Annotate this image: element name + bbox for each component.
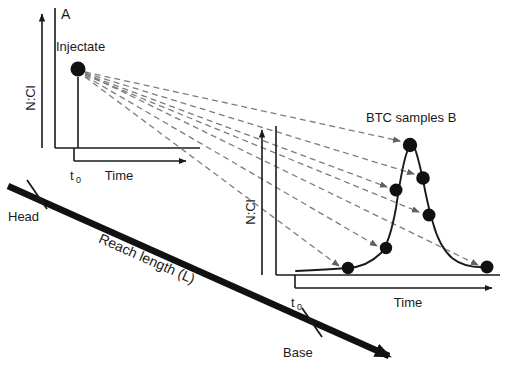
btc-sample-point-7 bbox=[481, 261, 494, 274]
panel-b-t0-subscript: 0 bbox=[297, 302, 302, 312]
ray-to-sample-6 bbox=[85, 75, 419, 212]
panel-a-x-axis-label: Time bbox=[105, 168, 133, 183]
btc-sample-point-4 bbox=[403, 138, 417, 152]
diagram-canvas: A N:Cl Injectate t 0 Time BTC samples B bbox=[0, 0, 509, 376]
panel-b-x-axis-label: Time bbox=[394, 295, 422, 310]
panel-b-t0-label: t bbox=[291, 295, 295, 310]
panel-a-t0-subscript: 0 bbox=[76, 175, 81, 185]
reach-arrow-group bbox=[8, 180, 389, 356]
btc-sample-point-3 bbox=[390, 184, 403, 197]
base-label: Base bbox=[283, 345, 313, 360]
ray-to-sample-7 bbox=[85, 74, 478, 266]
panel-a-t0-label: t bbox=[70, 168, 74, 183]
injectate-ray-fan bbox=[85, 72, 478, 266]
btc-sample-point-2 bbox=[380, 242, 392, 254]
head-label: Head bbox=[8, 209, 39, 224]
panel-a-y-axis-label: N:Cl bbox=[23, 85, 38, 110]
panel-b-title: BTC samples B bbox=[366, 110, 456, 125]
ray-to-sample-5 bbox=[85, 73, 414, 174]
panel-b-y-axis-label: N:Cl bbox=[243, 199, 258, 224]
reach-arrow bbox=[8, 186, 389, 356]
panel-a-injectate-label: Injectate bbox=[56, 39, 105, 54]
btc-sample-point-6 bbox=[423, 209, 436, 222]
figure-container: A N:Cl Injectate t 0 Time BTC samples B bbox=[0, 0, 509, 376]
ray-to-sample-4 bbox=[85, 72, 400, 141]
panel-a-axes bbox=[42, 8, 200, 161]
panel-a-label: A bbox=[61, 6, 71, 22]
btc-sample-point-1 bbox=[342, 262, 354, 274]
btc-sample-point-5 bbox=[416, 171, 430, 185]
btc-curve bbox=[296, 146, 488, 271]
injectate-dot bbox=[71, 62, 86, 77]
reach-length-label: Reach length (L) bbox=[96, 230, 197, 287]
